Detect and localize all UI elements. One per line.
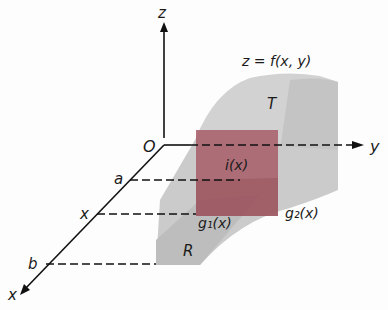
tick-a-label: a: [114, 170, 123, 188]
tick-b-label: b: [28, 255, 38, 273]
solid-t-front-face: [280, 78, 338, 150]
region-label: R: [183, 242, 193, 260]
y-axis-label: y: [369, 137, 380, 156]
origin-label: O: [143, 137, 156, 156]
x-axis-label: x: [7, 286, 17, 304]
y-axis-arrow-icon: [352, 141, 364, 149]
surface-label: z = f(x, y): [241, 53, 311, 69]
z-axis-arrow-icon: [160, 22, 168, 32]
slice-label: i(x): [225, 157, 248, 173]
diagram-canvas: z y x O z = f(x, y) T R a x b i(x) g₁(x)…: [0, 0, 388, 310]
slice-shade: [196, 178, 278, 216]
diagram-svg: z y x O z = f(x, y) T R a x b i(x) g₁(x)…: [0, 0, 388, 310]
tick-x-label: x: [79, 205, 89, 223]
upper-bound-label: g₂(x): [285, 205, 319, 221]
z-axis-label: z: [157, 4, 167, 22]
lower-bound-label: g₁(x): [198, 215, 232, 231]
x-axis: [24, 145, 164, 290]
